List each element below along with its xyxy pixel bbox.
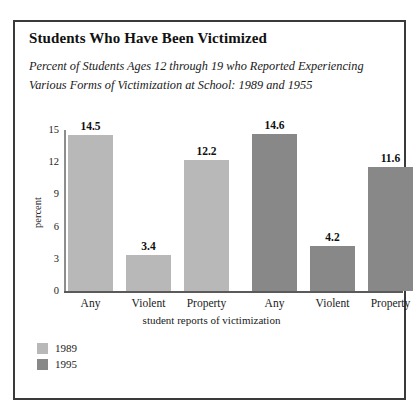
bar[interactable]: 4.2 [310, 130, 355, 291]
figure-container: Students Who Have Been Victimized Percen… [13, 20, 406, 400]
bar-value-label: 14.6 [264, 119, 284, 131]
x-axis-category-label: Violent [316, 297, 350, 309]
y-axis-tick-label: 0 [37, 286, 59, 297]
legend-swatch [37, 359, 48, 370]
bar[interactable]: 12.2 [184, 130, 229, 291]
bar-rect [68, 135, 113, 291]
bar-value-label: 3.4 [141, 240, 155, 252]
x-axis-category-label: Any [81, 297, 101, 309]
legend-swatch [37, 343, 48, 354]
y-axis-tick-label: 6 [37, 222, 59, 233]
y-axis-tick-label: 12 [37, 157, 59, 168]
x-axis-category-slot: Violent [310, 293, 355, 311]
bar[interactable]: 11.6 [368, 130, 413, 291]
bar-value-label: 14.5 [80, 120, 100, 132]
x-axis-category-label: Property [187, 297, 227, 309]
x-axis-category-label: Any [265, 297, 285, 309]
bar-rect [126, 255, 171, 291]
x-axis-category-slot: Violent [126, 293, 171, 311]
legend-item[interactable]: 1995 [37, 356, 77, 372]
bar-value-label: 11.6 [381, 152, 401, 164]
legend-item[interactable]: 1989 [37, 340, 77, 356]
x-axis-category-slot: Any [252, 293, 297, 311]
bar-value-label: 4.2 [325, 231, 339, 243]
bar[interactable]: 3.4 [126, 130, 171, 291]
x-axis-category-slot: Any [68, 293, 113, 311]
y-axis-tick-label: 9 [37, 189, 59, 200]
bar[interactable]: 14.6 [252, 130, 297, 291]
y-axis-tick-label: 15 [37, 125, 59, 136]
bars-layer: 14.53.412.214.64.211.6 [66, 130, 403, 291]
x-axis-category-label: Property [371, 297, 411, 309]
x-axis-title: student reports of victimization [15, 314, 408, 326]
bar[interactable]: 14.5 [68, 130, 113, 291]
bar-value-label: 12.2 [196, 145, 216, 157]
x-axis-category-slot: Property [184, 293, 229, 311]
bar-chart-plot: percent 03691215 14.53.412.214.64.211.6 … [15, 22, 408, 322]
bar-rect [310, 246, 355, 291]
bar-rect [184, 160, 229, 291]
legend-label: 1989 [55, 342, 77, 354]
x-axis-category-slot: Property [368, 293, 413, 311]
bar-rect [252, 134, 297, 291]
bar-rect [368, 167, 413, 292]
legend-label: 1995 [55, 358, 77, 370]
x-axis-category-labels: AnyViolentPropertyAnyViolentProperty [66, 293, 403, 313]
y-axis-tick-label: 3 [37, 254, 59, 265]
x-axis-category-label: Violent [132, 297, 166, 309]
chart-legend: 19891995 [37, 340, 77, 372]
